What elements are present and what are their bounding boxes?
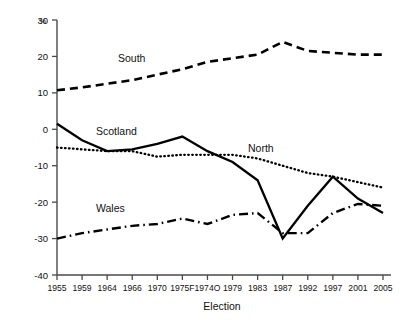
series-label-wales: Wales (96, 202, 125, 214)
x-axis-tick-label: 1979 (223, 283, 242, 293)
series-label-scotland: Scotland (96, 125, 137, 137)
x-axis-tick-label: 2001 (348, 283, 367, 293)
series-line-south (57, 42, 383, 90)
y-axis-tick-label: -30 (34, 233, 48, 244)
series-line-scotland (57, 124, 383, 239)
x-axis-title: Election (203, 300, 241, 312)
x-axis-tick-label: 1964 (98, 283, 117, 293)
chart-series-labels: SouthScotlandNorthWales (96, 52, 274, 214)
y-axis-tick-label: -10 (34, 160, 48, 171)
y-axis-unit-label: % (39, 17, 46, 26)
x-axis-tick-label: 1997 (323, 283, 342, 293)
x-axis-tick-label: 1983 (248, 283, 267, 293)
x-axis-tick-label: 1987 (273, 283, 292, 293)
y-axis-tick-label: 10 (37, 87, 48, 98)
chart-container: SouthScotlandNorthWales 3020100-10-20-30… (0, 0, 417, 331)
x-axis-tick-label: 1975F (170, 283, 194, 293)
y-axis-tick-label: -20 (34, 197, 48, 208)
x-axis-tick-label: 1974O (195, 283, 221, 293)
x-axis-tick-label: 1966 (123, 283, 142, 293)
x-axis-tick-label: 1992 (298, 283, 317, 293)
y-axis-tick-label: 0 (43, 124, 48, 135)
x-axis-tick-label: 1959 (73, 283, 92, 293)
x-axis-tick-label: 1955 (47, 283, 66, 293)
x-axis-tick-label: 1970 (148, 283, 167, 293)
y-axis-tick-label: 20 (37, 51, 48, 62)
y-axis-tick-label: -40 (34, 270, 48, 281)
line-chart: SouthScotlandNorthWales 3020100-10-20-30… (0, 0, 417, 331)
series-label-north: North (248, 142, 274, 154)
x-axis-tick-label: 2005 (373, 283, 392, 293)
series-line-north (57, 148, 383, 188)
series-label-south: South (118, 52, 146, 64)
